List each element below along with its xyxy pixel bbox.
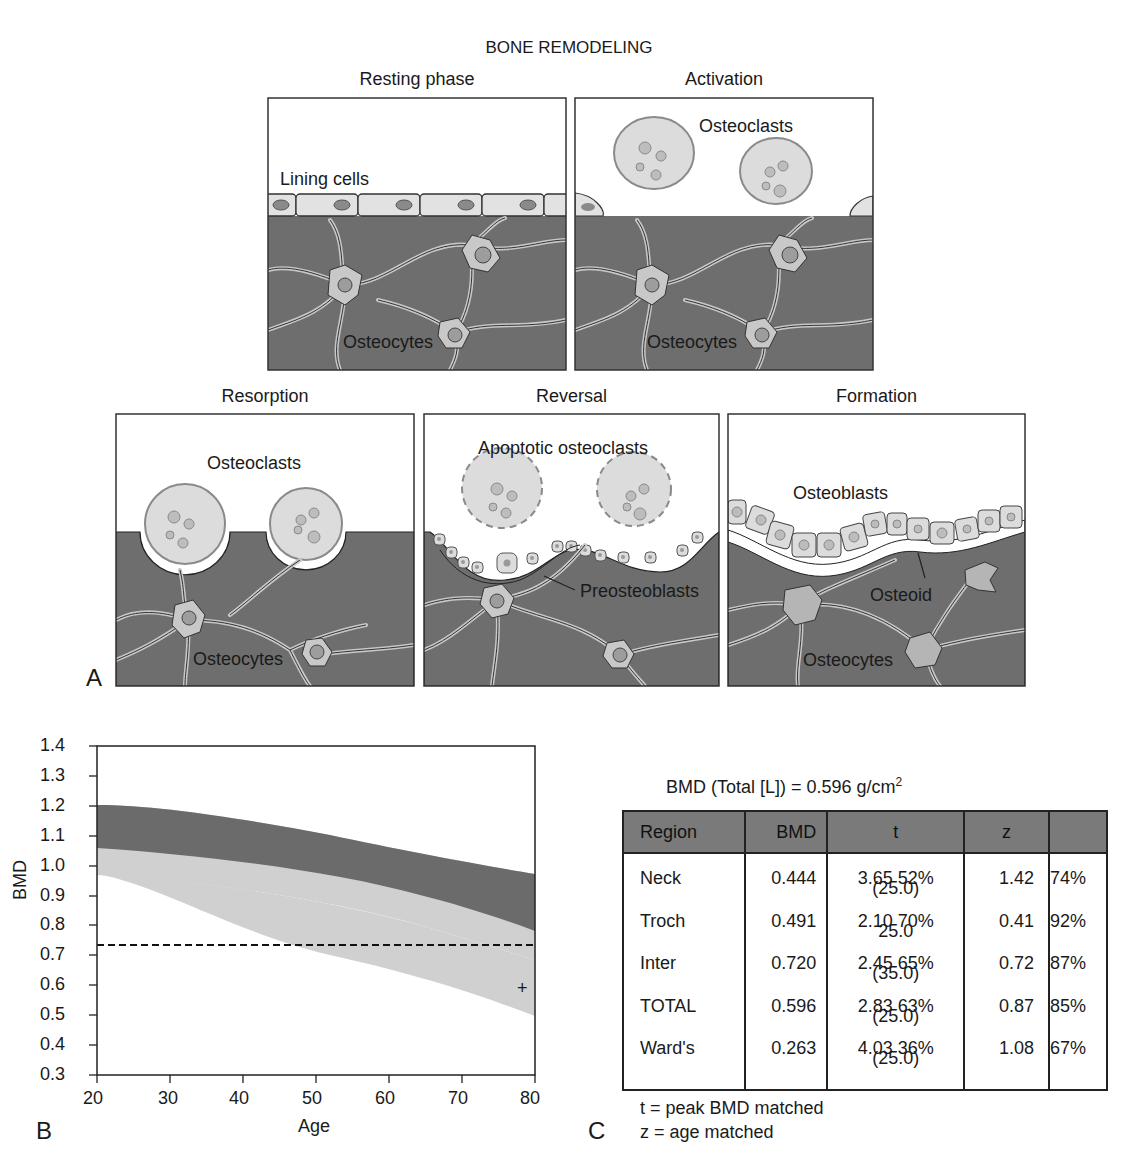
y-tick: 0.7: [40, 944, 65, 965]
y-tick: 0.5: [40, 1004, 65, 1025]
footnote-t: t = peak BMD matched: [640, 1098, 824, 1119]
x-tick: 30: [158, 1088, 178, 1109]
header-t: t: [827, 811, 964, 853]
patient-marker: +: [517, 978, 528, 999]
t-cell: 2.10 70%25.0: [828, 900, 963, 943]
region-cell: Ward's: [624, 1027, 744, 1070]
y-tick: 1.2: [40, 795, 65, 816]
label-osteocytes-activation: Osteocytes: [647, 332, 737, 353]
t-age: (25.0): [828, 878, 963, 898]
t-age: 25.0: [828, 921, 963, 941]
pct-cell: 67%: [1050, 1027, 1106, 1070]
z-cell: 0.87: [965, 985, 1048, 1028]
label-preosteoblasts: Preosteoblasts: [580, 581, 699, 602]
y-tick: 1.3: [40, 765, 65, 786]
table-title-superscript: 2: [896, 775, 903, 789]
activation-panel: [575, 98, 873, 370]
bone-remodeling-diagram: [0, 0, 1138, 700]
panel-letter-a: A: [86, 664, 102, 692]
y-tick: 0.9: [40, 885, 65, 906]
label-lining-cells: Lining cells: [280, 169, 369, 190]
region-cell: Inter: [624, 942, 744, 985]
t-age: (35.0): [828, 963, 963, 983]
y-tick: 0.6: [40, 974, 65, 995]
y-tick: 1.1: [40, 825, 65, 846]
label-osteoid: Osteoid: [870, 585, 932, 606]
y-tick: 1.0: [40, 855, 65, 876]
table-header-row: Region BMD t z: [623, 811, 1107, 853]
x-tick: 50: [302, 1088, 322, 1109]
bmd-cell: 0.444: [746, 857, 827, 900]
z-cell: 1.42: [965, 857, 1048, 900]
panel-letter-b: B: [36, 1117, 52, 1145]
region-column: Neck Troch Inter TOTAL Ward's: [623, 853, 745, 1090]
label-osteocytes-resorption: Osteocytes: [193, 649, 283, 670]
label-osteoclasts-resorption: Osteoclasts: [207, 453, 301, 474]
y-tick: 0.4: [40, 1034, 65, 1055]
pct-column: 74% 92% 87% 85% 67%: [1049, 853, 1107, 1090]
t-cell: 2.45 65%(35.0): [828, 942, 963, 985]
footnote-z: z = age matched: [640, 1122, 774, 1143]
x-tick: 40: [229, 1088, 249, 1109]
label-apoptotic-osteoclasts: Apoptotic osteoclasts: [478, 438, 648, 459]
x-tick: 20: [83, 1088, 103, 1109]
resting-phase-panel: [262, 98, 574, 370]
x-tick: 70: [448, 1088, 468, 1109]
y-tick: 0.3: [40, 1064, 65, 1085]
pct-cell: 85%: [1050, 985, 1106, 1028]
z-column: 1.42 0.41 0.72 0.87 1.08: [964, 853, 1049, 1090]
pct-cell: 87%: [1050, 942, 1106, 985]
bmd-column: 0.444 0.491 0.720 0.596 0.263: [745, 853, 828, 1090]
t-cell: 3.65 52%(25.0): [828, 857, 963, 900]
table-body: Neck Troch Inter TOTAL Ward's 0.444 0.49…: [623, 853, 1107, 1090]
label-osteocytes-formation: Osteocytes: [803, 650, 893, 671]
y-tick: 1.4: [40, 735, 65, 756]
bmd-cell: 0.596: [746, 985, 827, 1028]
bmd-results-table: Region BMD t z Neck Troch Inter TOTAL Wa…: [622, 810, 1108, 1091]
z-cell: 0.72: [965, 942, 1048, 985]
z-cell: 1.08: [965, 1027, 1048, 1070]
label-osteoblasts: Osteoblasts: [793, 483, 888, 504]
x-axis-label: Age: [298, 1116, 330, 1137]
table-title-text: BMD (Total [L]) = 0.596 g/cm: [666, 777, 896, 797]
header-pct: [1049, 811, 1107, 853]
header-region: Region: [623, 811, 745, 853]
y-axis-label: BMD: [10, 860, 31, 900]
t-age: (25.0): [828, 1048, 963, 1068]
x-tick: 80: [520, 1088, 540, 1109]
region-cell: TOTAL: [624, 985, 744, 1028]
pct-cell: 92%: [1050, 900, 1106, 943]
pct-cell: 74%: [1050, 857, 1106, 900]
y-tick: 0.8: [40, 914, 65, 935]
bmd-cell: 0.720: [746, 942, 827, 985]
header-bmd: BMD: [745, 811, 828, 853]
z-cell: 0.41: [965, 900, 1048, 943]
formation-panel: [728, 414, 1025, 686]
table-title: BMD (Total [L]) = 0.596 g/cm2: [666, 775, 902, 798]
t-cell: 2.83 63%(25.0): [828, 985, 963, 1028]
x-tick: 60: [375, 1088, 395, 1109]
region-cell: Troch: [624, 900, 744, 943]
t-cell: 4.03 36%(25.0): [828, 1027, 963, 1070]
bmd-cell: 0.491: [746, 900, 827, 943]
t-column: 3.65 52%(25.0) 2.10 70%25.0 2.45 65%(35.…: [827, 853, 964, 1090]
label-osteoclasts-activation: Osteoclasts: [699, 116, 793, 137]
region-cell: Neck: [624, 857, 744, 900]
panel-letter-c: C: [588, 1117, 605, 1145]
bmd-cell: 0.263: [746, 1027, 827, 1070]
header-z: z: [964, 811, 1049, 853]
t-age: (25.0): [828, 1006, 963, 1026]
label-osteocytes-resting: Osteocytes: [343, 332, 433, 353]
